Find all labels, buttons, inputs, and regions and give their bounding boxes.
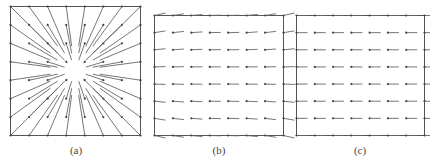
caption-c: (c) xyxy=(340,144,380,156)
panel-a xyxy=(10,6,141,136)
radial-vector-field xyxy=(10,6,141,136)
caption-a: (a) xyxy=(56,144,96,156)
uniform-horizontal-vector-field xyxy=(296,15,425,136)
caption-b: (b) xyxy=(199,144,239,156)
distorted-horizontal-vector-field xyxy=(154,15,284,136)
panel-c xyxy=(296,15,425,136)
panel-b xyxy=(154,15,284,136)
